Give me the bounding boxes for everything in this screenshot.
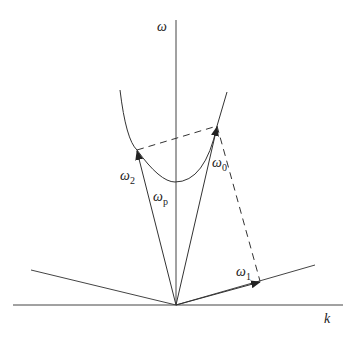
omega0-vector bbox=[176, 127, 217, 305]
light-line-left bbox=[31, 270, 176, 305]
omega2-label: ω2 bbox=[120, 168, 135, 186]
dashed-line-top bbox=[137, 126, 217, 150]
omega1-label: ω1 bbox=[236, 264, 251, 282]
dispersion-diagram: ω k ω0 ω2 ωp ω1 bbox=[0, 0, 359, 341]
k-axis-label: k bbox=[324, 311, 331, 326]
omegap-label: ωp bbox=[153, 189, 168, 207]
dispersion-curve bbox=[120, 90, 227, 182]
omega1-vector bbox=[176, 282, 260, 305]
dashed-line-right bbox=[217, 126, 260, 281]
omega2-vector bbox=[137, 151, 176, 305]
omega0-label: ω0 bbox=[212, 155, 227, 173]
omega-axis-label: ω bbox=[157, 19, 167, 34]
